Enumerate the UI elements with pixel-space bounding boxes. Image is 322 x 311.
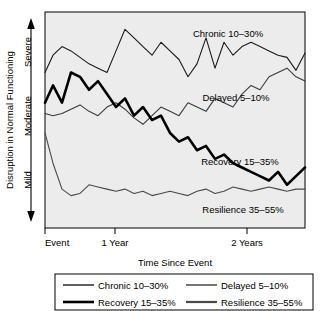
chart-svg: Disruption in Normal Functioning Severe … — [0, 0, 322, 311]
x-axis-ticks — [45, 228, 247, 234]
legend-label-chronic: Chronic 10–30% — [98, 280, 169, 291]
chart-figure: Disruption in Normal Functioning Severe … — [0, 0, 322, 311]
x-axis-title: Time Since Event — [138, 257, 212, 268]
y-tick-label-moderate: Moderate — [22, 96, 33, 136]
series-label-recovery: Recovery 15–35% — [201, 156, 279, 167]
legend-label-recovery: Recovery 15–35% — [98, 297, 176, 308]
legend-entry-recovery: Recovery 15–35% — [63, 297, 176, 308]
y-tick-label-severe: Severe — [22, 37, 33, 67]
x-tick-label-2-years: 2 Years — [231, 237, 263, 248]
legend-label-resilience: Resilience 35–55% — [221, 297, 303, 308]
legend-entry-delayed: Delayed 5–10% — [186, 280, 289, 291]
legend-label-delayed: Delayed 5–10% — [221, 280, 289, 291]
series-label-chronic: Chronic 10–30% — [193, 28, 264, 39]
x-tick-label-1-year: 1 Year — [102, 237, 129, 248]
x-tick-label-event: Event — [45, 237, 70, 248]
y-axis-title: Disruption in Normal Functioning — [4, 51, 15, 189]
y-tick-label-mild: Mild — [22, 171, 33, 188]
series-label-delayed: Delayed 5–10% — [202, 92, 270, 103]
legend-entry-resilience: Resilience 35–55% — [186, 297, 303, 308]
plot-area-background — [45, 12, 305, 228]
series-label-resilience: Resilience 35–55% — [202, 204, 284, 215]
legend-entry-chronic: Chronic 10–30% — [63, 280, 169, 291]
